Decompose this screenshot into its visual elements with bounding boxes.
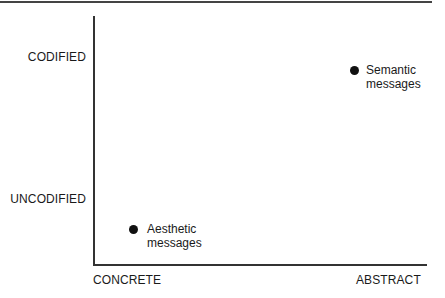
semantic-messages-point <box>350 66 359 75</box>
y-axis-label-codified: CODIFIED <box>0 50 86 64</box>
y-axis-label-uncodified: UNCODIFIED <box>0 192 86 206</box>
semantic-label-line1: Semantic <box>366 63 421 77</box>
top-rule <box>0 1 432 3</box>
aesthetic-messages-label: Aesthetic messages <box>147 222 202 250</box>
y-axis-line <box>93 16 95 266</box>
semantic-label-line2: messages <box>366 77 421 91</box>
aesthetic-messages-point <box>129 225 138 234</box>
x-axis-label-concrete: CONCRETE <box>93 273 161 287</box>
x-axis-label-abstract: ABSTRACT <box>356 273 421 287</box>
semantic-messages-label: Semantic messages <box>366 63 421 91</box>
x-axis-line <box>93 264 427 266</box>
aesthetic-label-line2: messages <box>147 236 202 250</box>
aesthetic-label-line1: Aesthetic <box>147 222 202 236</box>
